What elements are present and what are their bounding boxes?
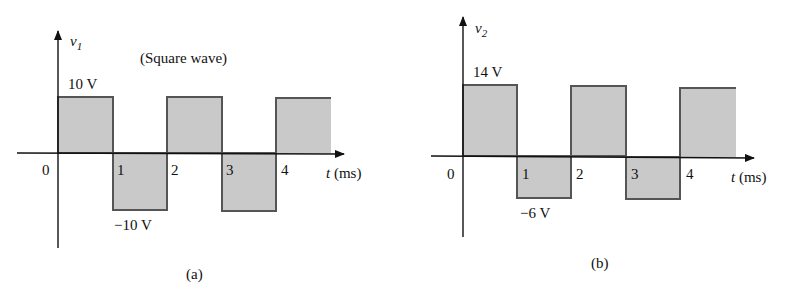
tick-label-b-2: 2 [576, 166, 584, 182]
tick-label-b-1: 1 [522, 166, 530, 182]
origin-label-b: 0 [447, 166, 455, 182]
tick-label-b-3: 3 [631, 166, 639, 182]
tick-label-a-3: 3 [226, 162, 234, 178]
caption-b: (b) [591, 255, 609, 272]
panel-a: v1 (Square wave) 10 V −10 V 0 1 2 3 4 t … [17, 31, 361, 283]
high-level-label-b: 14 V [473, 64, 502, 80]
pulse-high-2 [571, 86, 626, 156]
x-axis-label-a: t (ms) [326, 165, 361, 182]
high-level-label-a: 10 V [68, 76, 97, 92]
y-axis-label-b: v2 [475, 20, 488, 39]
low-level-label-a: −10 V [114, 217, 152, 233]
pulse-high-1 [463, 85, 517, 156]
waveform-title: (Square wave) [140, 50, 227, 67]
pulse-high-3 [276, 98, 331, 153]
x-axis-label-b: t (ms) [731, 169, 766, 186]
square-wave-v2 [463, 85, 736, 199]
pulse-high-3 [680, 88, 736, 157]
tick-label-a-1: 1 [117, 162, 125, 178]
y-axis-label-a: v1 [70, 33, 82, 52]
pulse-high-1 [58, 97, 113, 153]
panel-b: v2 14 V −6 V 0 1 2 3 4 t (ms) (b) [431, 17, 766, 272]
tick-label-a-2: 2 [171, 162, 179, 178]
pulse-high-2 [167, 97, 222, 153]
caption-a: (a) [186, 266, 203, 283]
figure-canvas: v1 (Square wave) 10 V −10 V 0 1 2 3 4 t … [0, 0, 802, 307]
low-level-label-b: −6 V [520, 205, 550, 221]
tick-label-a-4: 4 [281, 162, 289, 178]
tick-label-b-4: 4 [686, 166, 694, 182]
origin-label-a: 0 [42, 162, 50, 178]
